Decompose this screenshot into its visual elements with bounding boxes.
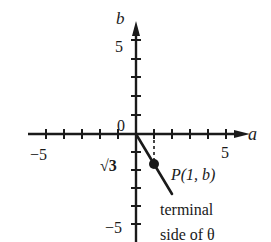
y-axis-label: b bbox=[116, 9, 125, 28]
y-tick-label-5: 5 bbox=[115, 38, 123, 55]
point-p-marker bbox=[149, 159, 159, 169]
terminal-side-label-line2: side of θ bbox=[160, 226, 215, 242]
origin-label: 0 bbox=[117, 117, 125, 134]
y-tick-label-neg5: −5 bbox=[105, 219, 122, 236]
point-p-label: P(1, b) bbox=[170, 166, 215, 184]
x-tick-label-5: 5 bbox=[221, 144, 229, 161]
coordinate-plane-diagram: b a 5 0 −5 5 √3 −5 P(1, b) terminal side… bbox=[0, 0, 271, 242]
x-tick-label-neg5: −5 bbox=[30, 146, 47, 163]
terminal-side-label-line1: terminal bbox=[160, 201, 214, 218]
x-axis-label: a bbox=[248, 124, 257, 144]
y-tick-label-sqrt3: √3 bbox=[100, 157, 117, 174]
y-axis-arrow-icon bbox=[132, 21, 140, 36]
